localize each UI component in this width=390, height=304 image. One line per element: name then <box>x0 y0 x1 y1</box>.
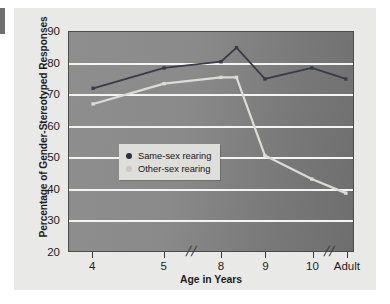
data-point-marker <box>344 191 347 194</box>
x-tick-label-10: 10 <box>306 260 319 272</box>
data-point-marker <box>235 76 238 79</box>
x-tick-label-Adult: Adult <box>334 260 360 272</box>
x-tick-label-5: 5 <box>161 260 167 272</box>
data-point-marker <box>310 177 313 180</box>
legend-marker-dark <box>126 153 132 159</box>
y-axis-tick-labels: 2030405060708090 <box>36 8 60 290</box>
y-tick-label-30: 30 <box>38 214 60 226</box>
data-point-marker <box>235 46 238 49</box>
x-axis-title: Age in Years <box>68 274 354 285</box>
x-tick-mark-9 <box>265 252 266 258</box>
x-tick-label-4: 4 <box>89 260 95 272</box>
x-tick-mark-10 <box>313 252 314 258</box>
x-tick-mark-8 <box>221 252 222 258</box>
x-tick-label-8: 8 <box>218 260 224 272</box>
x-tick-mark-5 <box>164 252 165 258</box>
data-point-marker <box>219 76 222 79</box>
x-tick-mark-4 <box>92 252 93 258</box>
legend-label-same-sex-rearing: Same-sex rearing <box>138 151 211 161</box>
legend-label-other-sex-rearing: Other-sex rearing <box>138 164 210 174</box>
y-tick-label-40: 40 <box>38 183 60 195</box>
page-edge-mark <box>0 8 5 34</box>
data-point-marker <box>91 102 94 105</box>
data-point-marker <box>162 82 165 85</box>
chart-lines <box>69 32 353 251</box>
x-tick-label-9: 9 <box>262 260 268 272</box>
y-tick-label-20: 20 <box>38 246 60 258</box>
plot-area: Same-sex rearing Other-sex rearing <box>68 31 354 252</box>
data-point-marker <box>310 66 313 69</box>
series-line-same-sex-rearing <box>93 48 346 89</box>
y-tick-label-70: 70 <box>38 88 60 100</box>
legend-item-same-sex-rearing: Same-sex rearing <box>126 149 211 162</box>
y-tick-label-90: 90 <box>38 25 60 37</box>
data-point-marker <box>219 60 222 63</box>
chart-legend: Same-sex rearing Other-sex rearing <box>119 144 220 180</box>
data-point-marker <box>263 154 266 157</box>
legend-marker-light <box>126 166 132 172</box>
data-point-marker <box>162 66 165 69</box>
data-point-marker <box>263 77 266 80</box>
y-tick-label-60: 60 <box>38 120 60 132</box>
y-tick-label-50: 50 <box>38 151 60 163</box>
x-tick-mark-Adult <box>347 252 348 258</box>
data-point-marker <box>91 87 94 90</box>
figure-card: Percentage of Gender-Stereotyped Respons… <box>14 8 376 290</box>
y-tick-label-80: 80 <box>38 57 60 69</box>
data-point-marker <box>344 77 347 80</box>
legend-item-other-sex-rearing: Other-sex rearing <box>126 162 211 175</box>
x-axis: 458910Adult//// <box>68 252 354 292</box>
